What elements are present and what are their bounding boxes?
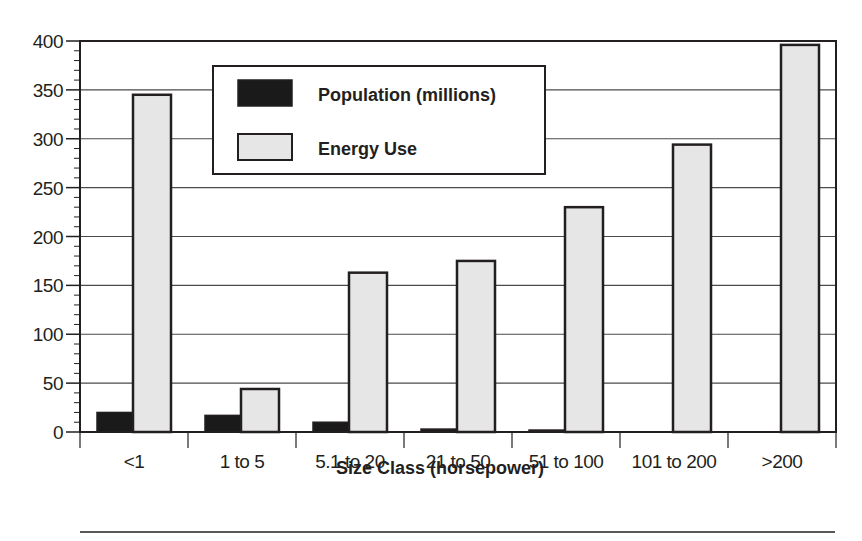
y-tick-label: 350 [33, 80, 63, 101]
bar-energy-use [781, 45, 819, 432]
x-tick-label: 101 to 200 [632, 451, 717, 472]
y-tick-label: 250 [33, 178, 63, 199]
bar-energy-use [241, 389, 279, 432]
y-tick-label: 400 [33, 31, 63, 52]
bar-energy-use [565, 207, 603, 432]
bar-chart: 050100150200250300350400 <11 to 55.1 to … [0, 0, 862, 541]
x-axis-title: Size Class (horsepower) [336, 458, 544, 478]
bar-population [205, 415, 241, 432]
y-tick-label: 0 [53, 422, 63, 443]
y-tick-label: 100 [33, 324, 63, 345]
bar-energy-use [457, 261, 495, 432]
x-tick-label: >200 [762, 451, 803, 472]
y-tick-label: 300 [33, 129, 63, 150]
legend-label-energy-use: Energy Use [318, 139, 417, 159]
x-tick-label: <1 [124, 451, 145, 472]
y-tick-label: 50 [43, 373, 63, 394]
legend-swatch-energy-use [238, 134, 292, 160]
legend: Population (millions)Energy Use [213, 66, 545, 174]
bar-energy-use [673, 145, 711, 432]
x-tick-label: 1 to 5 [220, 451, 265, 472]
bar-population [313, 422, 349, 432]
legend-swatch-population [238, 80, 292, 106]
bar-population [97, 412, 133, 432]
legend-label-population: Population (millions) [318, 85, 496, 105]
y-axis: 050100150200250300350400 [33, 31, 80, 443]
bar-energy-use [349, 273, 387, 432]
bar-energy-use [133, 95, 171, 432]
y-tick-label: 150 [33, 275, 63, 296]
y-tick-label: 200 [33, 227, 63, 248]
